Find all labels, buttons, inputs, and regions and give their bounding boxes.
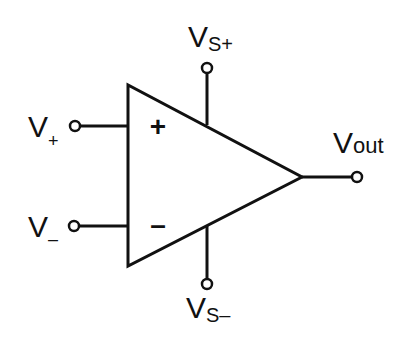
v-plus-label: V+	[28, 110, 59, 151]
v-out-terminal	[352, 172, 362, 182]
v-plus-terminal	[70, 121, 80, 131]
v-minus-label: V–	[28, 210, 58, 249]
v-out-label: Vout	[333, 126, 384, 159]
vs-plus-label: VS+	[188, 20, 233, 55]
vs-minus-label: VS–	[186, 291, 231, 326]
non-inverting-sign: +	[150, 111, 166, 142]
v-minus-terminal	[69, 221, 79, 231]
vs-minus-terminal	[202, 279, 212, 289]
vs-plus-terminal	[202, 63, 212, 73]
op-amp-diagram: + – V+ V– VS+ VS– Vout	[0, 0, 404, 347]
inverting-sign: –	[150, 209, 166, 240]
